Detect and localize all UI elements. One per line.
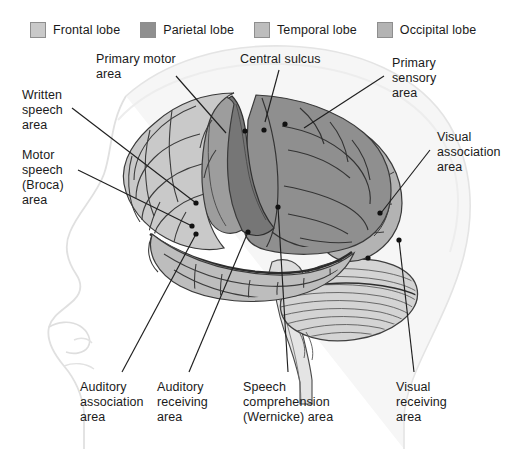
label-central-sulcus: Central sulcus [240,52,340,67]
label-auditory-receiving-area: Auditory receiving area [157,380,233,425]
label-visual-receiving-area: Visual receiving area [396,380,472,425]
dot-speech-comprehension-area [275,204,280,209]
label-visual-association-area: Visual association area [437,130,519,175]
label-motor-speech-broca-area: Motor speech (Broca) area [22,148,94,208]
dot-central-sulcus [261,127,266,132]
label-written-speech-area: Written speech area [22,88,92,133]
dot-auditory-association-area [193,231,198,236]
dot-auditory-receiving-area [245,229,250,234]
dot-primary-motor-area [242,128,247,133]
label-speech-comprehension-wernicke-area: Speech comprehension (Wernicke) area [243,380,361,425]
dot-motor-speech-broca-area [189,223,194,228]
label-primary-sensory-area: Primary sensory area [392,56,472,101]
label-primary-motor-area: Primary motor area [96,52,206,82]
dot-visual-association-area [377,210,382,215]
label-auditory-association-area: Auditory association area [80,380,162,425]
dot-visual-receiving-area [396,237,401,242]
brain-lobes-diagram: Frontal lobe Parietal lobe Temporal lobe… [0,0,521,449]
dot-written-speech-area [193,200,198,205]
dot-occipital-edge [365,255,370,260]
dot-primary-sensory-area [282,121,287,126]
